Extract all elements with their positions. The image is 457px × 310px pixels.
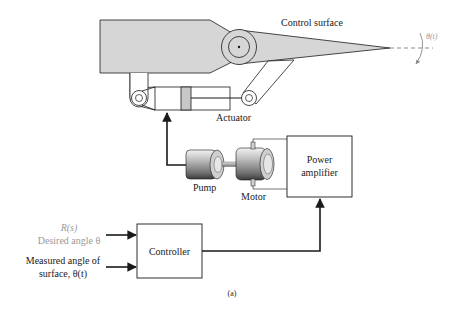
motor-terminal-top [251,142,255,149]
pump [186,150,224,179]
input-measured-label-line2: surface, θ(t) [39,268,87,280]
figure-caption: (a) [228,289,237,298]
motor [236,139,287,189]
theta-t-label: θ(t) [426,32,438,41]
input-desired-angle-label: Desired angle θ [38,235,101,246]
hydraulic-line-arrow [167,113,186,165]
control-surface-label: Control surface [281,17,343,28]
motor-wire-bottom [253,186,287,189]
actuator-cylinder [155,87,244,110]
hinge-pin [238,46,240,48]
motor-label: Motor [241,191,267,202]
input-measured-label-line1: Measured angle of [26,255,101,266]
input-rs-label: R(s) [60,222,78,234]
actuator-piston [181,87,191,110]
actuator-mount-bracket [130,73,155,110]
power-amplifier-label-line1: Power [307,154,333,165]
controller-to-amplifier-arrow [202,199,320,251]
motor-terminal-bottom [251,179,255,186]
motor-wire-top [253,139,287,142]
controller-label: Controller [149,246,191,257]
diagram-canvas: Control surface θ(t) Actuator Pump Motor… [0,0,457,310]
wing-body [100,20,232,73]
actuator-label: Actuator [216,112,252,123]
control-surface [222,30,434,65]
power-amplifier-label-line2: amplifier [301,167,338,178]
pump-label: Pump [193,182,216,193]
control-horn-link [242,60,295,106]
